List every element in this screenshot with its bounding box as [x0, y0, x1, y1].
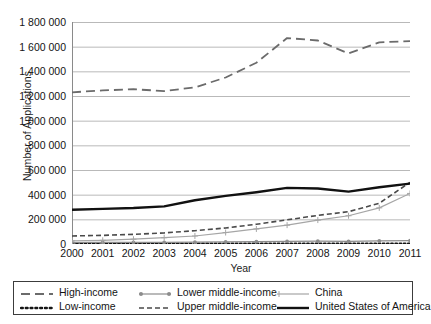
legend-entry-label: High-income — [59, 286, 118, 298]
plot-svg — [72, 22, 410, 244]
y-axis-tick-label: 1 200 000 — [4, 91, 66, 101]
x-axis-tick-label: 2011 — [390, 247, 430, 260]
legend-entry[interactable]: United States of America — [276, 298, 431, 314]
x-axis-tick-labels: 2000200120022003200420052006200720082009… — [72, 247, 410, 263]
legend-entry-label: Lower middle-income — [177, 286, 277, 298]
legend-entry-label: China — [315, 286, 342, 298]
legend-entry[interactable]: Upper middle-income — [138, 298, 277, 314]
legend-entry-label: Upper middle-income — [177, 300, 277, 312]
series-line — [72, 38, 410, 92]
y-axis-tick-label: 800 000 — [4, 140, 66, 150]
dotted-swatch — [20, 300, 54, 312]
y-axis-tick-labels: 1 800 0001 600 0001 400 0001 200 0001 00… — [0, 0, 66, 324]
y-axis-tick-label: 1 000 000 — [4, 116, 66, 126]
long-dash-swatch — [20, 286, 54, 298]
y-axis-tick-label: 1 800 000 — [4, 17, 66, 27]
circle-line-swatch — [138, 286, 172, 298]
x-axis-title: Year — [72, 262, 410, 274]
plus-line-swatch — [276, 286, 310, 298]
y-axis-tick-label: 200 000 — [4, 214, 66, 224]
y-axis-tick-label: 1 400 000 — [4, 66, 66, 76]
legend-entry[interactable]: Low-income — [20, 298, 116, 314]
short-dash-swatch — [138, 300, 172, 312]
y-axis-tick-label: 600 000 — [4, 165, 66, 175]
series-line — [72, 184, 410, 210]
series-line — [72, 190, 410, 243]
chart-legend: High-incomeLower middle-incomeChinaLow-i… — [13, 281, 413, 315]
legend-entry-label: Low-income — [59, 300, 116, 312]
y-axis-tick-label: 1 600 000 — [4, 42, 66, 52]
y-axis-tick-label: 400 000 — [4, 190, 66, 200]
legend-entry-label: United States of America — [315, 300, 431, 312]
plot-area — [72, 22, 410, 244]
solid-black-swatch — [276, 300, 310, 312]
gridlines — [72, 23, 410, 245]
